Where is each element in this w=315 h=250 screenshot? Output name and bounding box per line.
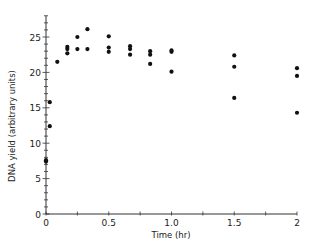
data-point-marker: [75, 35, 79, 39]
y-axis: 0510152025: [30, 16, 50, 220]
x-axis-title: Time (hr): [150, 230, 190, 240]
y-tick-label: 10: [30, 139, 42, 149]
scatter-chart: 0510152025 00.51.01.52 Time (hr) DNA yie…: [0, 0, 315, 250]
x-tick-label: 2: [294, 218, 300, 228]
y-axis-title: DNA yield (arbitrary units): [7, 70, 17, 182]
data-point-marker: [65, 51, 69, 55]
y-tick-label: 15: [30, 103, 41, 113]
data-point-marker: [65, 45, 69, 49]
data-point-marker: [148, 62, 152, 66]
data-point-marker: [295, 66, 299, 70]
y-tick-label: 5: [35, 174, 41, 184]
data-point-marker: [85, 27, 89, 31]
y-tick-label: 20: [30, 68, 42, 78]
data-point-marker: [169, 48, 173, 52]
data-point-marker: [128, 53, 132, 57]
data-point-marker: [107, 34, 111, 38]
data-point-marker: [232, 65, 236, 69]
data-point-marker: [295, 111, 299, 115]
y-tick-label: 25: [30, 33, 41, 43]
data-point-marker: [85, 47, 89, 51]
data-point-marker: [44, 158, 48, 162]
y-tick-label: 0: [35, 210, 41, 220]
data-point-marker: [55, 60, 59, 64]
data-points: [44, 27, 299, 164]
data-point-marker: [75, 47, 79, 51]
data-point-marker: [232, 53, 236, 57]
data-point-marker: [148, 49, 152, 53]
data-point-marker: [48, 100, 52, 104]
data-point-marker: [232, 96, 236, 100]
x-tick-label: 0.5: [102, 218, 116, 228]
x-axis: 00.51.01.52: [43, 212, 300, 229]
data-point-marker: [107, 46, 111, 50]
x-tick-label: 1.0: [164, 218, 179, 228]
data-point-marker: [128, 44, 132, 48]
data-point-marker: [169, 70, 173, 74]
data-point-marker: [295, 74, 299, 78]
x-tick-label: 1.5: [227, 218, 241, 228]
x-tick-label: 0: [43, 218, 49, 228]
data-point-marker: [107, 50, 111, 54]
data-point-marker: [48, 124, 52, 128]
